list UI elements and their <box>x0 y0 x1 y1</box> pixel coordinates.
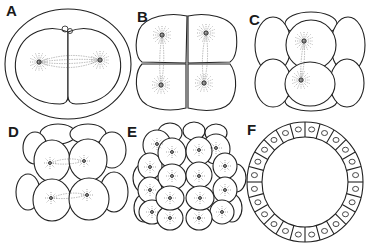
cell-nucleus <box>333 222 339 227</box>
cell-nucleus <box>353 173 359 178</box>
cleavage-diagram <box>0 0 369 245</box>
panel-a-two-cell <box>5 9 131 119</box>
panel-label-a: A <box>6 3 17 18</box>
blastula-cells <box>247 122 363 242</box>
panel-e-thirty-two-cell <box>133 122 246 230</box>
cell-nucleus <box>295 232 301 237</box>
cell-nucleus <box>271 222 277 227</box>
cell-nucleus <box>271 137 277 142</box>
cell-nucleus <box>255 200 261 205</box>
cell-nucleus <box>309 232 315 237</box>
cell-nucleus <box>342 212 348 217</box>
panel-b-four-cell <box>136 15 237 111</box>
panel-label-d: D <box>8 124 19 139</box>
cell-nucleus <box>309 127 315 132</box>
panel-label-e: E <box>127 124 137 139</box>
cell-nucleus <box>322 228 328 233</box>
cell-nucleus <box>333 137 339 142</box>
panel-label-c: C <box>249 12 260 27</box>
cell-nucleus <box>255 159 261 164</box>
cell-nucleus <box>262 212 268 217</box>
cell-nucleus <box>295 127 301 132</box>
cell-nucleus <box>282 131 288 136</box>
cell-nucleus <box>349 200 355 205</box>
cell-nucleus <box>322 131 328 136</box>
panel-label-f: F <box>247 122 256 137</box>
cell-nucleus <box>262 147 268 152</box>
cell-nucleus <box>282 228 288 233</box>
cell-nucleus <box>342 147 348 152</box>
cell-nucleus <box>251 173 257 178</box>
cell-nucleus <box>251 186 257 191</box>
cell-nucleus <box>353 186 359 191</box>
panel-c-eight-cell <box>255 12 365 111</box>
cell-nucleus <box>349 159 355 164</box>
panel-d-sixteen-cell <box>16 124 128 221</box>
panel-label-b: B <box>137 9 148 24</box>
panel-f-blastula <box>247 122 363 242</box>
